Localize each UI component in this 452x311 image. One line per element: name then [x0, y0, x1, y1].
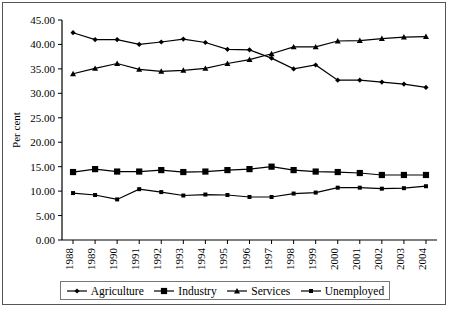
data-point: [269, 56, 274, 61]
data-point: [114, 61, 120, 66]
data-point: [224, 167, 230, 173]
legend-label: Services: [251, 285, 290, 297]
data-point: [423, 172, 429, 178]
y-tick-label: 5.00: [36, 210, 56, 222]
y-tick-label: 40.00: [30, 38, 55, 50]
data-point: [313, 168, 319, 174]
data-point: [423, 85, 428, 90]
x-tick-label: 2004: [416, 248, 428, 271]
data-point: [158, 167, 164, 173]
data-point: [225, 193, 229, 197]
legend-label: Industry: [178, 285, 216, 297]
y-tick-label: 45.00: [30, 14, 55, 26]
series-line: [73, 37, 426, 74]
data-point: [402, 186, 406, 190]
data-point: [71, 191, 75, 195]
data-point: [247, 47, 252, 52]
x-tick-label: 1992: [151, 248, 163, 270]
y-tick-label: 20.00: [30, 136, 55, 148]
chart-canvas: 0.005.0010.0015.0020.0025.0030.0035.0040…: [0, 0, 452, 311]
data-point: [114, 168, 120, 174]
legend-label: Agriculture: [91, 285, 144, 297]
data-point: [93, 193, 97, 197]
data-point: [246, 166, 252, 172]
y-tick-label: 15.00: [30, 161, 55, 173]
data-point: [137, 187, 141, 191]
data-point: [335, 169, 341, 175]
data-point: [115, 197, 119, 201]
data-point: [357, 78, 362, 83]
y-tick-label: 25.00: [30, 112, 55, 124]
data-point: [401, 81, 406, 86]
data-point: [159, 39, 164, 44]
legend-marker-square-small-icon: [300, 285, 322, 297]
x-tick-label: 1993: [173, 248, 185, 271]
chart-legend: AgricultureIndustryServicesUnemployed: [60, 281, 390, 300]
data-point: [70, 169, 76, 175]
data-point: [291, 66, 296, 71]
x-tick-label: 1990: [107, 248, 119, 271]
x-axis-ticks: 1988198919901991199219931994199519961997…: [63, 240, 428, 270]
legend-item-services[interactable]: Services: [226, 285, 290, 297]
data-point: [268, 164, 274, 170]
data-point: [137, 42, 142, 47]
series-industry: [70, 164, 429, 179]
series-unemployed: [71, 184, 428, 201]
data-point: [92, 166, 98, 172]
data-point: [203, 193, 207, 197]
y-tick-label: 0.00: [36, 234, 56, 246]
data-point: [202, 168, 208, 174]
x-tick-label: 1991: [129, 248, 141, 270]
y-tick-label: 10.00: [30, 185, 55, 197]
data-point: [357, 170, 363, 176]
legend-marker-triangle-icon: [226, 285, 248, 297]
x-tick-label: 2000: [328, 248, 340, 271]
data-point: [248, 195, 252, 199]
x-tick-label: 1998: [284, 248, 296, 271]
legend-marker-diamond-icon: [66, 285, 88, 297]
data-point: [92, 37, 97, 42]
data-point: [136, 168, 142, 174]
y-axis-title: Per cent: [10, 112, 22, 148]
data-point: [180, 169, 186, 175]
data-point: [424, 184, 428, 188]
data-point: [358, 186, 362, 190]
x-tick-label: 1995: [217, 248, 229, 271]
legend-marker-square-large-icon: [153, 285, 175, 297]
y-axis-ticks: 0.005.0010.0015.0020.0025.0030.0035.0040…: [30, 14, 62, 246]
data-point: [159, 190, 163, 194]
data-point: [225, 47, 230, 52]
x-tick-label: 2003: [394, 248, 406, 271]
y-tick-label: 30.00: [30, 87, 55, 99]
legend-label: Unemployed: [325, 285, 384, 297]
x-tick-label: 2002: [372, 248, 384, 270]
data-point: [203, 40, 208, 45]
x-tick-label: 1999: [306, 248, 318, 271]
line-chart-svg: 0.005.0010.0015.0020.0025.0030.0035.0040…: [0, 0, 452, 311]
axis-lines: [62, 20, 437, 240]
legend-item-unemployed[interactable]: Unemployed: [300, 285, 384, 297]
data-point: [181, 36, 186, 41]
x-tick-label: 1996: [240, 248, 252, 271]
data-series-group: [70, 30, 429, 201]
series-services: [70, 34, 429, 77]
data-point: [379, 79, 384, 84]
legend-item-industry[interactable]: Industry: [153, 285, 216, 297]
data-point: [70, 30, 75, 35]
data-point: [181, 194, 185, 198]
legend-item-agriculture[interactable]: Agriculture: [66, 285, 144, 297]
data-point: [292, 192, 296, 196]
x-tick-label: 1988: [63, 248, 75, 271]
y-tick-label: 35.00: [30, 63, 55, 75]
data-point: [336, 186, 340, 190]
x-tick-label: 1994: [195, 248, 207, 271]
data-point: [379, 172, 385, 178]
x-tick-label: 2001: [350, 248, 362, 270]
data-point: [401, 172, 407, 178]
x-tick-label: 1997: [262, 248, 274, 271]
data-point: [291, 167, 297, 173]
data-point: [115, 37, 120, 42]
data-point: [270, 195, 274, 199]
data-point: [314, 191, 318, 195]
data-point: [380, 187, 384, 191]
